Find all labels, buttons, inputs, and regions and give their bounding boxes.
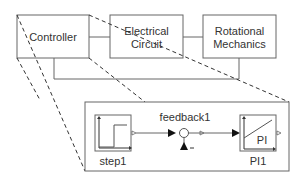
step-block[interactable] (95, 115, 136, 151)
electrical-label-line1: Electrical (110, 25, 183, 37)
rotational-label-line1: Rotational (203, 25, 276, 37)
pi-inner-label: PI (252, 134, 272, 146)
rotational-label-line2: Mechanics (203, 38, 276, 50)
step-label: step1 (93, 155, 133, 167)
electrical-label-line2: Circuit (110, 38, 183, 50)
pi-label: PI1 (240, 155, 276, 167)
feedback-label: feedback1 (150, 111, 220, 123)
controller-label: Controller (17, 31, 89, 43)
